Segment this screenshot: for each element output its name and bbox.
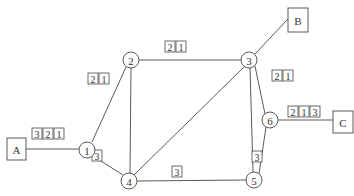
tag-value: 2 <box>46 129 51 140</box>
tag-value: 2 <box>168 42 173 53</box>
node-label: 3 <box>246 55 252 67</box>
tag-value: 1 <box>286 71 291 82</box>
terminal-label: A <box>13 144 21 156</box>
tag-value: 3 <box>313 107 318 118</box>
edge-tag-6-C: 213 <box>288 106 320 118</box>
tag-value: 1 <box>57 129 62 140</box>
tag-value: 3 <box>175 167 180 178</box>
node-1: 1 <box>79 142 95 158</box>
node-4: 4 <box>121 173 137 189</box>
tag-value: 3 <box>255 152 260 163</box>
terminal-C: C <box>333 111 353 133</box>
edge-5-6 <box>259 127 266 174</box>
edge-tag-3-6: 21 <box>272 70 293 82</box>
tag-value: 1 <box>302 107 307 118</box>
edge-tag-1-2: 21 <box>88 73 109 85</box>
node-2: 2 <box>123 52 139 68</box>
edge-tag-A-1: 321 <box>32 128 64 140</box>
node-6: 6 <box>262 112 278 128</box>
tag-value: 2 <box>291 107 296 118</box>
edge-tag-2-3: 21 <box>165 41 186 53</box>
node-5: 5 <box>246 172 262 188</box>
node-label: 5 <box>251 175 257 187</box>
tag-value: 1 <box>102 74 107 85</box>
node-label: 1 <box>84 145 90 157</box>
edge-3-B <box>255 19 288 54</box>
tag-value: 3 <box>35 129 40 140</box>
network-diagram: 321212121213333 ABC 123456 <box>0 0 354 196</box>
tag-value: 2 <box>91 74 96 85</box>
tag-value: 2 <box>275 71 280 82</box>
tag-value: 1 <box>179 42 184 53</box>
edge-3-4 <box>134 67 244 175</box>
node-label: 4 <box>126 176 132 188</box>
tags-layer: 321212121213333 <box>32 41 320 178</box>
terminal-label: C <box>339 117 346 129</box>
terminal-label: B <box>294 15 301 27</box>
edge-3-6 <box>255 66 265 114</box>
node-label: 2 <box>128 55 134 67</box>
edge-2-4 <box>130 68 131 173</box>
tag-value: 3 <box>95 151 100 162</box>
edge-tag-5-6: 3 <box>252 151 262 163</box>
edge-4-5 <box>137 180 246 181</box>
terminal-A: A <box>7 138 26 160</box>
node-label: 6 <box>267 115 273 127</box>
edge-tag-4-5: 3 <box>172 166 182 178</box>
terminal-B: B <box>288 8 308 32</box>
node-3: 3 <box>241 52 257 68</box>
